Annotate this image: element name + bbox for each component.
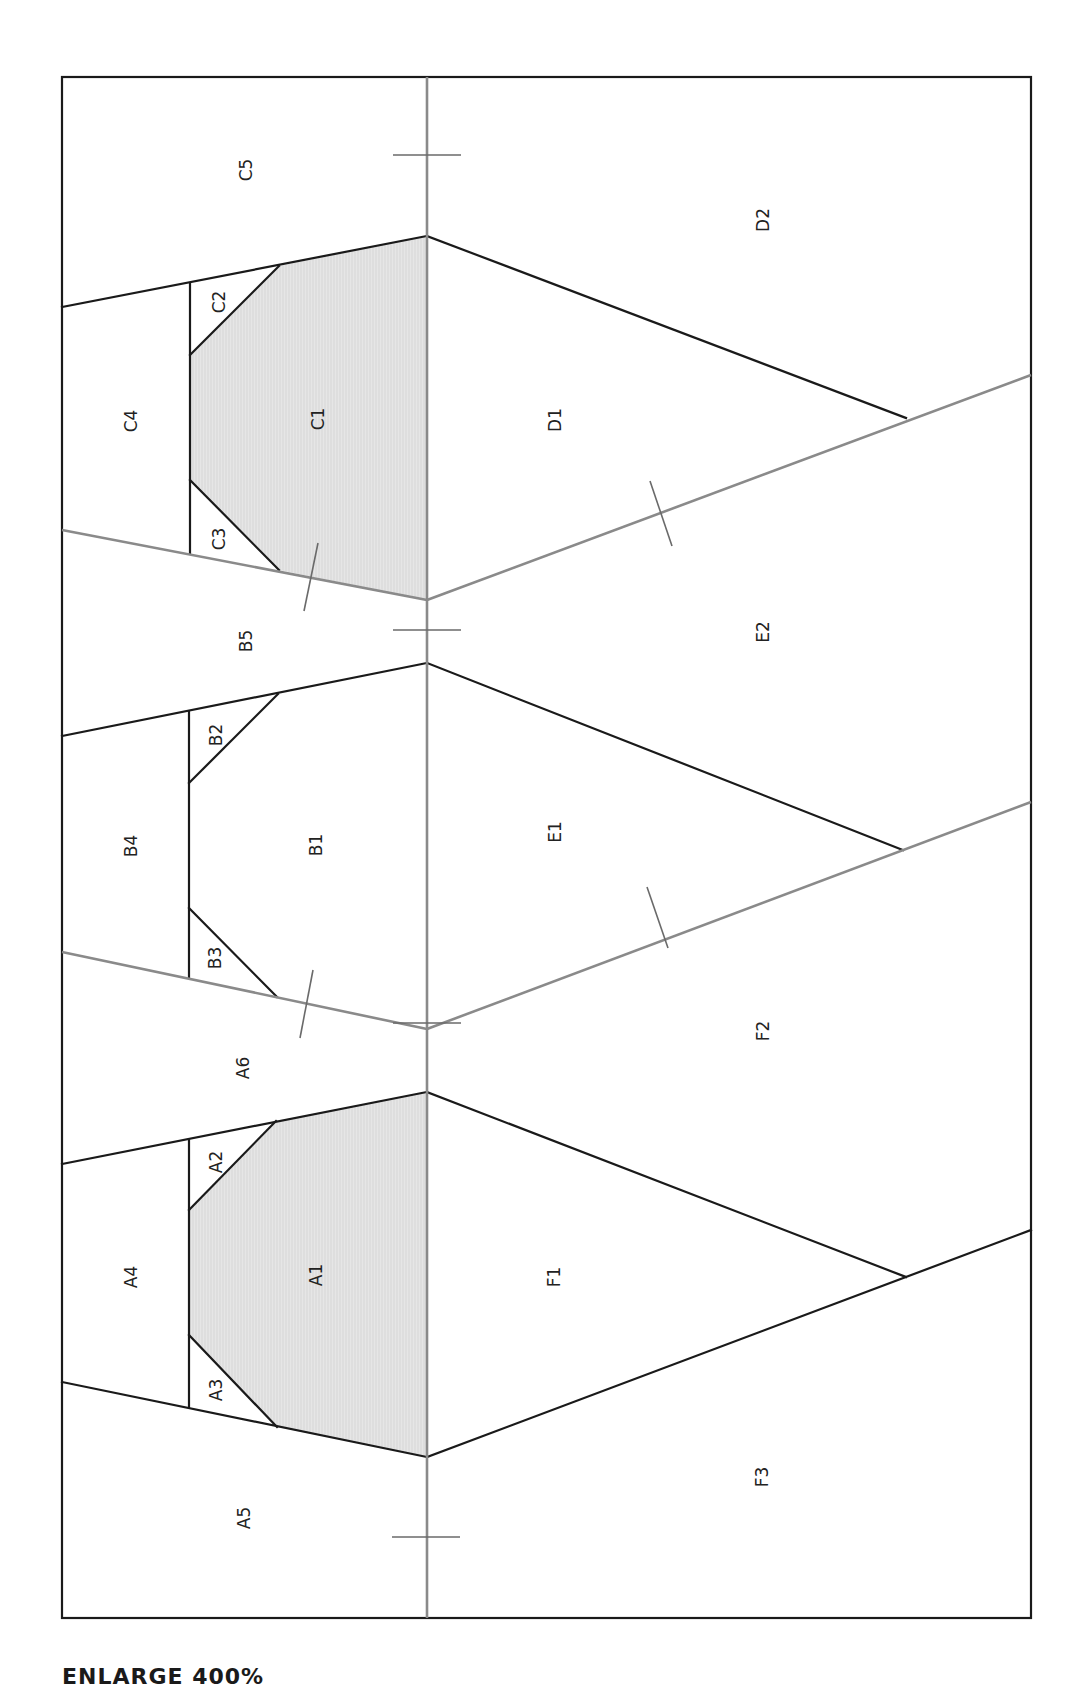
f1-lower-edge xyxy=(427,1230,1031,1457)
enlarge-instruction: ENLARGE 400% xyxy=(62,1664,264,1688)
e-lower-seam xyxy=(427,802,1031,1029)
d1-upper-edge xyxy=(427,236,906,418)
f1-upper-edge xyxy=(427,1092,906,1277)
label-E1: E1 xyxy=(545,821,565,843)
label-B5: B5 xyxy=(236,630,256,652)
label-D1: D1 xyxy=(545,408,565,432)
label-A1: A1 xyxy=(306,1264,326,1286)
label-A3: A3 xyxy=(206,1379,226,1401)
label-B2: B2 xyxy=(206,724,226,746)
label-C2: C2 xyxy=(209,291,229,314)
e1-upper-edge xyxy=(427,663,903,850)
label-C5: C5 xyxy=(236,159,256,182)
label-D2: D2 xyxy=(753,208,773,232)
b3-diagonal xyxy=(189,908,277,997)
d-lower-seam xyxy=(427,375,1031,600)
tick-mark xyxy=(647,887,668,948)
label-A4: A4 xyxy=(121,1266,141,1288)
paper-piecing-pattern: C5 C4 C2 C1 C3 B5 B4 B2 B1 B3 A6 A4 A2 A… xyxy=(0,0,1083,1688)
label-F3: F3 xyxy=(752,1467,772,1488)
label-F2: F2 xyxy=(753,1021,773,1042)
label-C4: C4 xyxy=(121,410,141,433)
label-B3: B3 xyxy=(205,947,225,969)
label-B1: B1 xyxy=(306,834,326,856)
label-F1: F1 xyxy=(544,1267,564,1288)
label-A5: A5 xyxy=(234,1507,254,1529)
tick-mark xyxy=(650,481,672,546)
label-C3: C3 xyxy=(209,528,229,551)
label-E2: E2 xyxy=(753,621,773,643)
label-C1: C1 xyxy=(308,408,328,431)
label-A2: A2 xyxy=(206,1151,226,1173)
b-top-edge xyxy=(62,663,427,736)
label-B4: B4 xyxy=(121,835,141,857)
label-A6: A6 xyxy=(233,1057,253,1079)
